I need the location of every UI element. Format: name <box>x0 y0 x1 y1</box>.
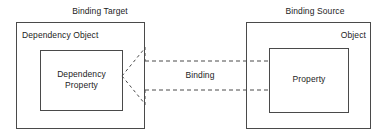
dependency-property-label-line1: Dependency <box>41 69 122 80</box>
dependency-object-label: Dependency Object <box>22 30 98 40</box>
binding-diagram: Binding Target Binding Source Dependency… <box>0 0 385 139</box>
binding-connector-label: Binding <box>170 70 230 80</box>
dependency-property-label-line2: Property <box>41 80 122 91</box>
property-label: Property <box>270 74 348 84</box>
binding-source-title: Binding Source <box>262 6 368 16</box>
binding-target-title: Binding Target <box>52 6 148 16</box>
object-label: Object <box>300 30 366 40</box>
binding-arrow-upper-diagonal <box>122 48 145 76</box>
dependency-property-label: Dependency Property <box>41 69 122 91</box>
binding-arrow-lower-diagonal <box>122 76 145 104</box>
